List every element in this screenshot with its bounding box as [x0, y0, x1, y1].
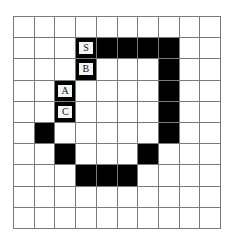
- grid-cell: [137, 122, 158, 143]
- grid-cell: [199, 58, 220, 79]
- grid-cell: [96, 58, 117, 79]
- grid-cell-filled: [75, 164, 96, 185]
- grid-cell: [199, 122, 220, 143]
- grid-cell: [54, 58, 75, 79]
- grid-cell: [199, 207, 220, 228]
- grid-cell: [54, 37, 75, 58]
- grid-cell: [179, 207, 200, 228]
- grid-cell: [13, 164, 34, 185]
- grid-cell: [199, 143, 220, 164]
- grid-cell: [54, 207, 75, 228]
- grid-cell: [54, 186, 75, 207]
- grid-cell-filled: [158, 80, 179, 101]
- grid-cell: [117, 207, 138, 228]
- grid-cell: [34, 37, 55, 58]
- grid-cell: [137, 207, 158, 228]
- grid-cell: [179, 101, 200, 122]
- grid-cell: [199, 164, 220, 185]
- grid-cell: [13, 80, 34, 101]
- grid-cell: [199, 186, 220, 207]
- grid-cell: [13, 122, 34, 143]
- grid-cell: [34, 58, 55, 79]
- grid-cell: [96, 122, 117, 143]
- grid-cell: [117, 186, 138, 207]
- grid-cell-filled: S: [75, 37, 96, 58]
- grid-cell: [117, 58, 138, 79]
- grid-cell: [158, 186, 179, 207]
- grid-cell: [13, 143, 34, 164]
- grid-cell-filled: A: [54, 80, 75, 101]
- grid-cell: [54, 122, 75, 143]
- grid-cell: [199, 80, 220, 101]
- grid-cell: [137, 16, 158, 37]
- grid-cell: [179, 143, 200, 164]
- grid-cell: [75, 207, 96, 228]
- grid-diagram: SBAC: [13, 16, 221, 229]
- grid-cell: [75, 80, 96, 101]
- grid-cell: [96, 16, 117, 37]
- grid-cell: [13, 186, 34, 207]
- grid-cell: [179, 186, 200, 207]
- grid-cell-filled: [158, 58, 179, 79]
- grid-cell: [179, 164, 200, 185]
- grid-cell: [13, 58, 34, 79]
- grid-cell: [158, 207, 179, 228]
- cell-label: A: [58, 85, 72, 97]
- grid-cell: [34, 143, 55, 164]
- grid-cell: [117, 143, 138, 164]
- grid-cell-filled: [158, 37, 179, 58]
- grid-cell: [179, 37, 200, 58]
- grid-cell: [75, 186, 96, 207]
- grid-cell-filled: [137, 37, 158, 58]
- cell-label: S: [79, 42, 93, 54]
- grid-cell: [34, 164, 55, 185]
- grid-cell: [13, 16, 34, 37]
- grid-cell: [137, 80, 158, 101]
- grid-cell: [13, 37, 34, 58]
- grid-cell: [75, 122, 96, 143]
- grid-cell: [13, 207, 34, 228]
- grid-cell: [34, 207, 55, 228]
- grid-cell: [34, 101, 55, 122]
- grid-cell-filled: B: [75, 58, 96, 79]
- grid-cell: [75, 101, 96, 122]
- grid-cell: [179, 58, 200, 79]
- grid-cell: [96, 143, 117, 164]
- grid-cell: [34, 16, 55, 37]
- cell-label: B: [79, 63, 93, 75]
- grid-cell: [137, 164, 158, 185]
- grid-cell: [96, 186, 117, 207]
- grid-cell: [96, 101, 117, 122]
- grid-cell: [179, 16, 200, 37]
- grid-cell: [179, 122, 200, 143]
- grid-cell: [199, 101, 220, 122]
- grid-cell-filled: [158, 122, 179, 143]
- grid-cell: [117, 80, 138, 101]
- grid-cell-filled: [117, 37, 138, 58]
- grid-cell: [137, 101, 158, 122]
- grid-cell: [117, 16, 138, 37]
- grid-cell: [34, 186, 55, 207]
- grid-cell: [13, 101, 34, 122]
- grid-cell-filled: [158, 101, 179, 122]
- grid-cell-filled: [96, 164, 117, 185]
- grid-cell: [117, 122, 138, 143]
- grid-cell: [137, 58, 158, 79]
- grid-cell-filled: [117, 164, 138, 185]
- grid-cell: [117, 101, 138, 122]
- grid-cell-filled: [54, 143, 75, 164]
- grid-cell: [34, 80, 55, 101]
- grid-cell-filled: C: [54, 101, 75, 122]
- grid-cell: [158, 164, 179, 185]
- grid-cell-filled: [34, 122, 55, 143]
- grid-cell: [75, 16, 96, 37]
- grid-cell-filled: [137, 143, 158, 164]
- grid-cell: [96, 207, 117, 228]
- grid-cell: [54, 16, 75, 37]
- grid-cell: [199, 16, 220, 37]
- grid-cell: [96, 80, 117, 101]
- cell-label: C: [58, 106, 72, 118]
- grid-cell: [158, 143, 179, 164]
- grid-cell-filled: [96, 37, 117, 58]
- grid-cell: [199, 37, 220, 58]
